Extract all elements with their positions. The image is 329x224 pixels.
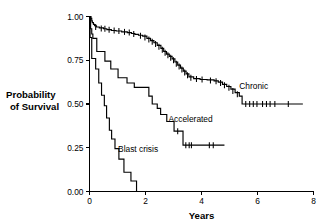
y-tick-label: 0.25 <box>67 143 84 153</box>
x-tick-label: 0 <box>87 196 92 206</box>
y-axis-ticks: 0.000.250.500.751.00 <box>67 12 89 197</box>
curve-label-chronic: Chronic <box>239 81 268 91</box>
kaplan-meier-plot: 0.000.250.500.751.00 02468 ChronicAccele… <box>0 0 329 224</box>
y-axis-title-line2: of Survival <box>10 101 59 112</box>
y-axis-title-line1: Probability <box>6 89 56 100</box>
y-tick-label: 0.50 <box>67 99 84 109</box>
x-tick-label: 6 <box>255 196 260 206</box>
y-tick-label: 0.75 <box>67 55 84 65</box>
curve-label-accelerated: Accelerated <box>168 114 213 124</box>
x-tick-label: 2 <box>143 196 148 206</box>
x-tick-label: 4 <box>199 196 204 206</box>
survival-curve-chronic <box>90 17 303 105</box>
curve-label-blast-crisis: Blast crisis <box>118 144 158 154</box>
x-axis-title: Years <box>189 210 215 221</box>
x-axis-ticks: 02468 <box>87 192 316 207</box>
survival-chart-figure: 0.000.250.500.751.00 02468 ChronicAccele… <box>0 0 329 224</box>
curve-labels-group: ChronicAcceleratedBlast crisis <box>118 81 268 154</box>
y-tick-label: 1.00 <box>67 12 84 22</box>
x-tick-label: 8 <box>311 196 316 206</box>
y-tick-label: 0.00 <box>67 187 84 197</box>
survival-curves-group <box>90 17 303 192</box>
